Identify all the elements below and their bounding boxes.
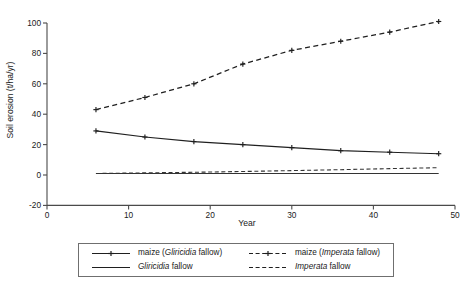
data-point-marker [191,139,196,144]
chart-legend: maize (Gliricidia fallow)maize (Imperata… [78,243,394,277]
data-point-marker [436,151,441,156]
legend-entry: maize (Imperata fallow) [236,246,393,260]
y-tick-label: 60 [32,79,42,89]
data-point-marker [289,48,294,53]
data-point-marker [191,81,196,86]
x-tick-label: 50 [450,210,460,220]
x-tick-label: 30 [287,210,297,220]
legend-label: Imperata fallow [295,263,351,271]
legend-swatch-solid-plain [91,263,131,272]
legend-label: Gliricidia fallow [138,263,193,271]
x-tick-label: 20 [206,210,216,220]
x-tick-label: 10 [124,210,134,220]
data-point-marker [93,107,98,112]
x-tick-label: 0 [45,210,50,220]
legend-swatch-dashed-with-plus-marker [248,249,288,258]
soil-erosion-line-chart: 100806040200-20 01020304050 Soil erosion… [0,0,471,285]
data-point-marker [436,19,441,24]
data-point-marker [387,30,392,35]
data-series-group [93,19,441,174]
legend-swatch-solid-with-plus-marker [91,249,131,258]
series-line [96,21,439,109]
y-tick-label: 40 [32,109,42,119]
data-point-marker [338,39,343,44]
y-tick-label: 0 [36,170,41,180]
legend-label: maize (Gliricidia fallow) [138,249,222,257]
x-tick-label: 40 [369,210,379,220]
series-line [96,168,439,174]
y-tick-label: 20 [32,140,42,150]
legend-swatch-dashed-plain [248,263,288,272]
data-point-marker [387,150,392,155]
x-axis-title: Year [238,218,256,228]
y-tick-label: 100 [27,18,41,28]
y-axis: 100806040200-20 [27,18,47,210]
data-point-marker [142,134,147,139]
legend-entry: Imperata fallow [236,260,393,274]
data-point-marker [289,145,294,150]
legend-label: maize (Imperata fallow) [295,249,380,257]
legend-entry: maize (Gliricidia fallow) [79,246,236,260]
legend-entry: Gliricidia fallow [79,260,236,274]
data-point-marker [93,128,98,133]
data-point-marker [338,148,343,153]
y-tick-label: -20 [29,200,41,210]
y-axis-title: Soil erosion (t/ha/yr) [5,61,15,138]
data-point-marker [240,142,245,147]
series-line [96,131,439,154]
data-point-marker [240,61,245,66]
data-point-marker [142,95,147,100]
y-tick-label: 80 [32,48,42,58]
